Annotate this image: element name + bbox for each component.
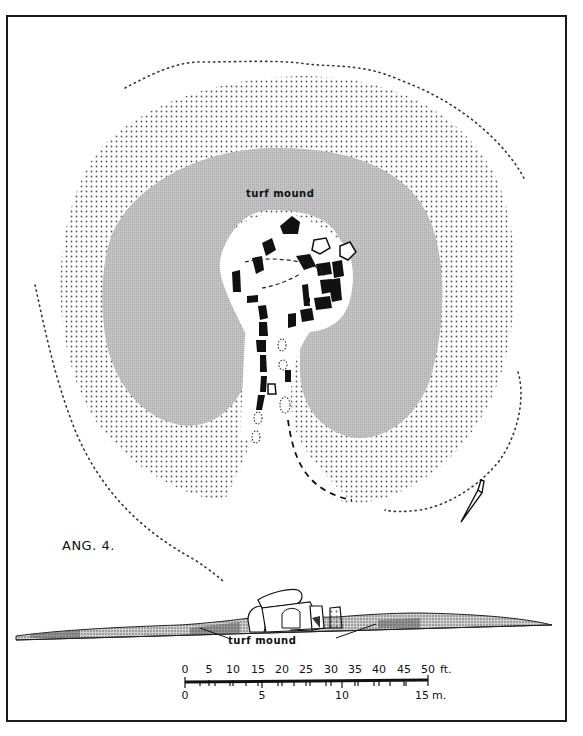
scale-m-tick: 5 — [259, 689, 266, 702]
scale-ft-tick: 40 — [372, 663, 386, 676]
scale-ft-tick: 35 — [348, 663, 362, 676]
scale-m-tick: 10 — [335, 689, 349, 702]
scale-ft-unit: ft. — [440, 663, 452, 676]
site-plan — [0, 0, 583, 736]
scale-m-unit: m. — [432, 689, 446, 702]
figure-label: ANG. 4. — [62, 538, 115, 553]
scale-ft-tick: 30 — [324, 663, 338, 676]
scale-ft-tick: 15 — [251, 663, 265, 676]
scale-ft-tick: 0 — [182, 663, 189, 676]
cross-section — [16, 589, 552, 640]
section-turf-mound-label: turf mound — [228, 635, 296, 646]
scale-ft-tick: 20 — [275, 663, 289, 676]
scale-ft-tick: 45 — [397, 663, 411, 676]
scale-bar — [185, 675, 428, 688]
plan-turf-mound-label: turf mound — [246, 188, 314, 199]
scale-ft-tick: 5 — [206, 663, 213, 676]
scale-ft-tick: 25 — [299, 663, 313, 676]
scale-m-tick: 0 — [182, 689, 189, 702]
scale-m-tick: 15 — [415, 689, 429, 702]
scale-ft-tick: 50 — [421, 663, 435, 676]
scale-ft-tick: 10 — [226, 663, 240, 676]
